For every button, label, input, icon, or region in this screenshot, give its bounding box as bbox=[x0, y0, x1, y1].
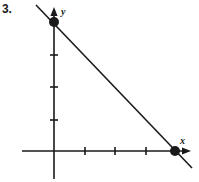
y-intercept-point bbox=[49, 17, 59, 27]
x-axis-arrow-icon bbox=[182, 147, 191, 154]
y-axis-label: y bbox=[60, 6, 66, 17]
graph-figure: 3. x y bbox=[0, 0, 199, 182]
x-axis-label: x bbox=[179, 135, 185, 146]
y-axis-arrow-icon bbox=[50, 7, 57, 16]
x-intercept-point bbox=[170, 146, 180, 156]
plotted-line bbox=[36, 5, 192, 168]
coordinate-plane-plot: x y bbox=[0, 0, 199, 182]
